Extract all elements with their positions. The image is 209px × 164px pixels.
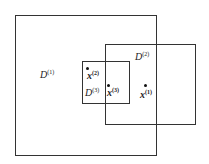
label-x1-sup: (1) bbox=[145, 89, 152, 95]
label-x2: x(2) bbox=[87, 70, 99, 81]
label-x3: x(3) bbox=[107, 87, 119, 98]
label-d1-sup: (1) bbox=[47, 69, 54, 75]
label-d3: D(3) bbox=[85, 87, 99, 98]
label-d3-sup: (3) bbox=[92, 87, 99, 93]
label-x1: x(1) bbox=[140, 89, 152, 100]
point-x1-dot bbox=[144, 84, 147, 87]
label-x2-sup: (2) bbox=[92, 70, 99, 76]
label-d1: D(1) bbox=[40, 69, 54, 80]
label-d2: D(2) bbox=[135, 51, 149, 62]
label-x3-sup: (3) bbox=[112, 87, 119, 93]
label-d2-sup: (2) bbox=[142, 51, 149, 57]
